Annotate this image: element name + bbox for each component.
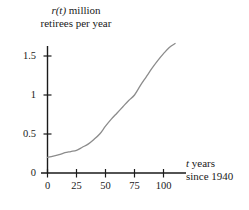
y-tick-label-1: 1 xyxy=(10,89,36,101)
y-tick-label-1.5: 1.5 xyxy=(10,50,36,62)
x-axis-title-line2: since 1940 xyxy=(186,170,248,183)
x-tick-label-50: 50 xyxy=(93,180,119,192)
y-tick-label-0: 0 xyxy=(10,167,36,179)
x-tick-label-0: 0 xyxy=(35,180,61,192)
x-tick-label-100: 100 xyxy=(151,180,177,192)
x-axis-title: t years since 1940 xyxy=(186,157,248,183)
y-axis-title-variable: r(t) xyxy=(51,4,66,16)
figure-container: r(t) million retirees per year t years s… xyxy=(0,0,249,210)
y-axis-title: r(t) million retirees per year xyxy=(16,4,136,30)
x-axis-title-units: years xyxy=(189,157,215,169)
series-line-rt xyxy=(48,44,176,158)
y-tick-label-0.5: 0.5 xyxy=(10,128,36,140)
y-axis-title-units: million xyxy=(66,4,101,16)
y-axis-title-line2: retirees per year xyxy=(16,17,136,30)
x-tick-label-25: 25 xyxy=(64,180,90,192)
x-tick-label-75: 75 xyxy=(122,180,148,192)
